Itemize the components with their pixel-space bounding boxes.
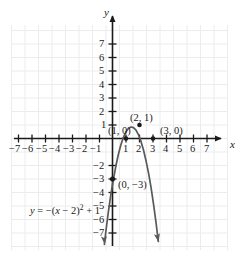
y-tick-label-neg4: −4 — [93, 188, 104, 199]
equation-eq: = −( — [35, 205, 56, 216]
y-tick-label-6: 6 — [99, 53, 104, 64]
x-tick-label-neg5: −5 — [36, 144, 47, 155]
x-tick-label-1: 1 — [123, 144, 128, 155]
equation-label: y = −(x − 2)2 + 1 — [30, 206, 100, 217]
x-intercept-left-label: (1, 0) — [108, 126, 131, 137]
graph-figure: −7 −6 −5 −4 −3 −2 −1 1 2 3 4 5 6 7 7 6 5… — [0, 0, 251, 264]
y-tick-label-neg2: −2 — [93, 161, 104, 172]
point-marker-0-neg3 — [110, 177, 115, 182]
x-intercept-right-label: (3, 0) — [160, 126, 183, 137]
y-tick-label-4: 4 — [99, 80, 104, 91]
equation-tail: + 1 — [84, 205, 100, 216]
y-tick-label-7: 7 — [99, 39, 104, 50]
y-tick-label-1: 1 — [101, 120, 106, 131]
vertex-label: (2, 1) — [130, 113, 153, 124]
equation-mid: − 2) — [60, 205, 80, 216]
y-tick-label-neg3: −3 — [93, 174, 104, 185]
y-tick-label-5: 5 — [99, 66, 104, 77]
x-tick-label-neg6: −6 — [22, 144, 33, 155]
x-axis-label: x — [230, 139, 235, 150]
x-tick-label-neg4: −4 — [49, 144, 60, 155]
x-tick-label-7: 7 — [204, 144, 209, 155]
y-tick-label-2: 2 — [99, 107, 104, 118]
point-marker-3-0 — [151, 136, 156, 141]
y-tick-label-neg7: −7 — [93, 228, 104, 239]
x-tick-label-neg7: −7 — [9, 144, 20, 155]
x-tick-label-6: 6 — [190, 144, 195, 155]
y-axis-label: y — [104, 7, 109, 18]
x-tick-label-3: 3 — [150, 144, 155, 155]
x-tick-label-5: 5 — [177, 144, 182, 155]
y-intercept-label: (0, −3) — [118, 180, 147, 191]
x-tick-label-neg3: −3 — [63, 144, 74, 155]
point-marker-1-0 — [124, 136, 129, 141]
y-tick-label-3: 3 — [99, 93, 104, 104]
x-tick-label-2: 2 — [136, 144, 141, 155]
x-tick-label-4: 4 — [163, 144, 168, 155]
x-tick-label-neg2: −2 — [76, 144, 87, 155]
x-tick-label-neg1: −1 — [90, 144, 101, 155]
